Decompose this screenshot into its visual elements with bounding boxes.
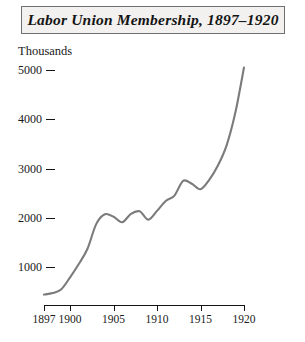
chart-figure: Labor Union Membership, 1897–1920 Thousa… — [0, 0, 305, 342]
plot-area: 10002000300040005000 1897190019051910191… — [0, 0, 305, 342]
data-series-layer — [0, 0, 305, 342]
line-series-labor-union-membership — [44, 68, 244, 295]
